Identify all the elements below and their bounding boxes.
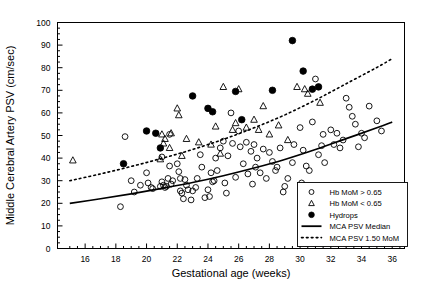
point-filled-circle (289, 37, 296, 44)
chart-figure: 1618202224262830323436 01020304050607080… (0, 0, 430, 300)
point-filled-circle (300, 68, 307, 75)
x-tick-label: 16 (80, 254, 90, 264)
y-tick-label: 0 (46, 244, 51, 254)
y-tick-label: 70 (41, 85, 51, 95)
scatter-plot: 1618202224262830323436 01020304050607080… (0, 0, 430, 300)
point-filled-circle (157, 145, 164, 152)
x-tick-label: 22 (173, 254, 183, 264)
point-filled-circle (309, 212, 315, 218)
point-filled-circle (120, 160, 127, 167)
point-filled-circle (309, 86, 316, 93)
y-tick-label: 10 (41, 221, 51, 231)
point-filled-circle (269, 87, 276, 94)
x-tick-label: 20 (142, 254, 152, 264)
chart-legend: Hb MoM > 0.65Hb MoM < 0.65HydropsMCA PSV… (298, 183, 408, 247)
legend-label: MCA PSV 1.50 MoM (330, 234, 400, 243)
y-tick-label: 50 (41, 131, 51, 141)
x-tick-label: 26 (234, 254, 244, 264)
y-tick-label: 90 (41, 40, 51, 50)
point-filled-circle (315, 84, 322, 91)
legend-label: Hb MoM > 0.65 (330, 188, 382, 197)
point-filled-circle (152, 130, 159, 137)
point-filled-circle (238, 116, 245, 123)
y-tick-label: 40 (41, 153, 51, 163)
point-filled-circle (232, 88, 239, 95)
point-filled-circle (209, 108, 216, 115)
point-filled-circle (143, 128, 150, 135)
x-tick-label: 34 (357, 254, 367, 264)
x-tick-label: 28 (265, 254, 275, 264)
y-tick-label: 30 (41, 176, 51, 186)
x-tick-label: 36 (387, 254, 397, 264)
y-tick-label: 100 (36, 18, 50, 28)
x-tick-label: 30 (295, 254, 305, 264)
x-tick-label: 32 (326, 254, 336, 264)
y-tick-label: 20 (41, 198, 51, 208)
x-tick-label: 24 (203, 254, 213, 264)
y-tick-label: 80 (41, 63, 51, 73)
legend-label: MCA PSV Median (330, 222, 391, 231)
legend-label: Hb MoM < 0.65 (330, 199, 382, 208)
x-axis-title: Gestational age (weeks) (172, 267, 291, 279)
y-tick-label: 60 (41, 108, 51, 118)
legend-label: Hydrops (330, 211, 358, 220)
x-tick-label: 18 (111, 254, 121, 264)
point-filled-circle (189, 93, 196, 100)
y-axis-title: Middle Cerebral Artery PSV (cm/sec) (4, 46, 16, 226)
